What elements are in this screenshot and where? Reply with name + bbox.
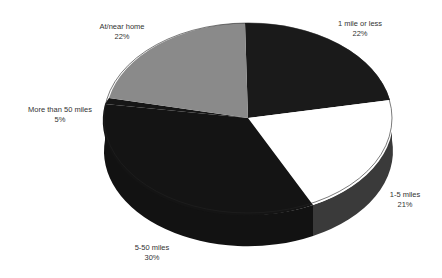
label-at-near-home: At/near home 22% (92, 22, 152, 42)
label-name: 5-50 miles (127, 243, 177, 253)
label-value: 22% (92, 32, 152, 42)
label-value: 30% (127, 253, 177, 263)
pie-chart (0, 0, 442, 278)
label-1-mile-or-less: 1 mile or less 22% (330, 19, 390, 39)
label-5-50-miles: 5-50 miles 30% (127, 243, 177, 263)
label-value: 21% (380, 200, 430, 210)
label-name: 1-5 miles (380, 190, 430, 200)
label-more-than-50-miles: More than 50 miles 5% (18, 105, 102, 125)
label-value: 22% (330, 29, 390, 39)
label-name: At/near home (92, 22, 152, 32)
label-1-5-miles: 1-5 miles 21% (380, 190, 430, 210)
label-name: More than 50 miles (18, 105, 102, 115)
label-name: 1 mile or less (330, 19, 390, 29)
label-value: 5% (18, 115, 102, 125)
